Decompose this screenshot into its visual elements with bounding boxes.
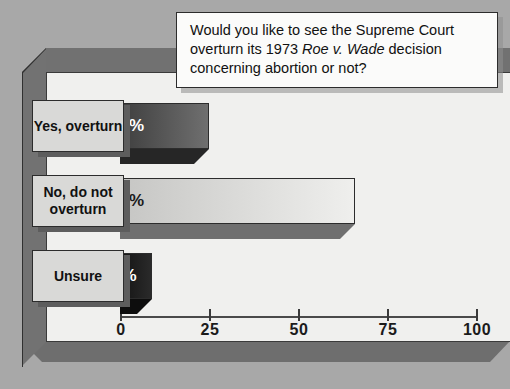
category-label-no-do-not-overturn[interactable]: No, do not overturn [32, 175, 124, 227]
x-tick-label-0: 0 [116, 321, 125, 339]
title-case-name: Roe v. Wade [302, 41, 384, 57]
x-tick-label-4: 100 [463, 321, 491, 339]
bar-value-label: 66% [110, 178, 345, 224]
title-line-2-post: decision [385, 41, 442, 57]
title-line-3: concerning abortion or not? [190, 59, 486, 78]
category-label-text: Unsure [54, 268, 102, 285]
bar-bottom-face [120, 224, 355, 239]
x-tick-3 [387, 309, 389, 321]
category-label-yes-overturn[interactable]: Yes, overturn [32, 100, 124, 152]
x-tick-4 [476, 309, 478, 321]
title-line-2: overturn its 1973 Roe v. Wade decision [190, 40, 486, 59]
x-tick-label-2: 50 [290, 321, 309, 339]
title-line-1: Would you like to see the Supreme Court [190, 21, 486, 40]
category-label-text: No, do not overturn [33, 184, 123, 218]
category-label-text: Yes, overturn [34, 118, 123, 135]
title-line-2-pre: overturn its 1973 [190, 41, 302, 57]
x-tick-1 [209, 309, 211, 321]
chart-title-box: Would you like to see the Supreme Court … [176, 12, 498, 88]
bar-bottom-face [120, 149, 209, 164]
chart-root: 0 25 50 75 100 25% 66% 9% Yes, overturn … [0, 0, 510, 389]
x-tick-label-1: 25 [201, 321, 220, 339]
category-label-unsure[interactable]: Unsure [32, 250, 124, 302]
x-tick-2 [298, 309, 300, 321]
x-tick-label-3: 75 [379, 321, 398, 339]
